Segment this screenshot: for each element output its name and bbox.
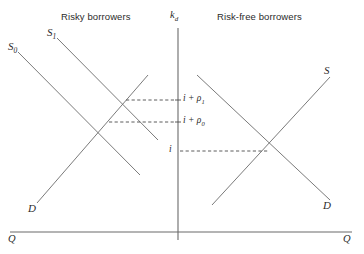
vertical-axis-subscript: d [175,15,179,23]
vertical-axis-label: kd [170,9,178,23]
rate-label-i-plus-rho1-sub: 1 [201,98,204,105]
rate-label-i-plus-rho1-base: i + [183,93,197,103]
curve-right-supply [212,77,330,205]
curve-label-right-demand: D [323,199,331,211]
rate-label-i-plus-rho1: i + ρ1 [183,93,205,105]
rate-label-i: i [169,144,172,154]
credit-market-diagram: Risky borrowers Risk-free borrowers kd S… [0,0,364,254]
horizontal-axis-label-right: Q [343,233,351,244]
curve-left-supply-1 [57,38,158,140]
rate-label-i-plus-rho0: i + ρ0 [183,115,205,127]
curve-label-left-supply-1: S1 [47,26,56,41]
curve-label-left-demand: D [28,202,36,214]
curve-label-right-supply: S [324,64,330,76]
curve-left-supply-0 [18,52,140,175]
rate-label-i-plus-rho0-base: i + [183,115,197,125]
panel-title-risky-borrowers: Risky borrowers [61,11,131,22]
curve-right-demand [197,75,330,200]
curve-left-demand [37,75,148,203]
panel-title-risk-free-borrowers: Risk-free borrowers [217,11,302,22]
curve-label-left-supply-0: S0 [8,40,17,55]
curve-label-left-supply-0-sub: 0 [14,46,18,55]
rate-label-i-plus-rho0-sub: 0 [201,120,204,127]
horizontal-axis-label-left: Q [8,233,16,244]
curve-label-left-supply-1-sub: 1 [53,32,57,41]
